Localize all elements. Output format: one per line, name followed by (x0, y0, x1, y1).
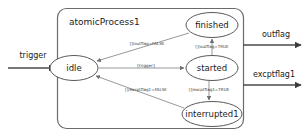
edge-finished-to-idle-label: []/outflag=FALSE (130, 41, 165, 46)
edge-interrupted1-to-idle-label: []/excptflag1=FALSE (125, 87, 167, 92)
port-outflag[interactable]: outflag (243, 30, 301, 46)
container-title: atomicProcess1 (69, 17, 140, 27)
state-node-interrupted1[interactable]: interrupted1 (182, 102, 242, 127)
state-node-started-label: started (197, 63, 227, 73)
diagram-canvas: atomicProcess1 trigger outflag excptflag… (0, 0, 306, 137)
port-trigger[interactable]: trigger (8, 51, 55, 69)
port-outflag-label: outflag (262, 30, 290, 39)
edge-started-to-interrupted1-label: []/excptflag1=TRUE (189, 87, 230, 92)
port-excptflag1-label: excptflag1 (253, 70, 295, 79)
state-node-interrupted1-label: interrupted1 (185, 109, 238, 119)
state-node-idle[interactable]: idle (50, 56, 98, 81)
port-excptflag1[interactable]: excptflag1 (243, 70, 301, 86)
port-trigger-label: trigger (19, 51, 47, 60)
edge-idle-to-started-label: {trigger} (136, 63, 155, 68)
state-machine-diagram: atomicProcess1 trigger outflag excptflag… (0, 0, 306, 137)
edge-started-to-finished-label: []/outflag=TRUE (195, 44, 229, 49)
state-node-finished-label: finished (195, 20, 229, 30)
state-node-finished[interactable]: finished (186, 13, 238, 38)
state-node-idle-label: idle (66, 63, 81, 73)
state-node-started[interactable]: started (186, 56, 238, 81)
